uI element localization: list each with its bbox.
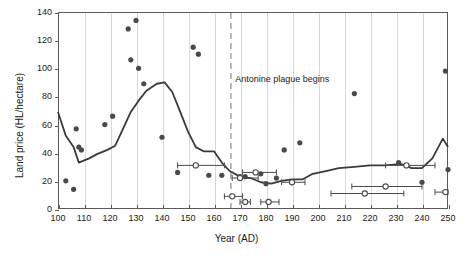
gridline-vertical bbox=[397, 13, 398, 208]
x-axis-tick-label: 200 bbox=[310, 213, 325, 223]
x-axis-tick-label: 130 bbox=[128, 213, 143, 223]
gridline-vertical bbox=[137, 13, 138, 208]
gridline-vertical bbox=[241, 13, 242, 208]
x-axis-tick-label: 180 bbox=[258, 213, 273, 223]
x-axis-tick bbox=[215, 205, 216, 209]
gridline-vertical bbox=[163, 13, 164, 208]
gridline-vertical bbox=[215, 13, 216, 208]
x-axis-tick bbox=[189, 205, 190, 209]
gridline-vertical bbox=[345, 13, 346, 208]
y-axis-tick-label: 0 bbox=[26, 204, 52, 214]
x-axis-tick bbox=[397, 205, 398, 209]
y-axis-tick bbox=[55, 69, 59, 70]
y-axis-tick-label: 120 bbox=[26, 35, 52, 45]
x-axis-tick bbox=[423, 205, 424, 209]
y-axis-tick-label: 100 bbox=[26, 63, 52, 73]
gridline-vertical bbox=[423, 13, 424, 208]
gridline-vertical bbox=[267, 13, 268, 208]
y-axis-tick bbox=[55, 210, 59, 211]
x-axis-tick bbox=[345, 205, 346, 209]
annotation-antonine-plague: Antonine plague begins bbox=[235, 74, 329, 84]
x-axis-tick-label: 230 bbox=[388, 213, 403, 223]
x-axis-tick bbox=[319, 205, 320, 209]
x-axis-title: Year (AD) bbox=[0, 233, 473, 244]
y-axis-tick-label: 40 bbox=[26, 148, 52, 158]
x-axis-tick-label: 150 bbox=[180, 213, 195, 223]
y-axis-tick-label: 140 bbox=[26, 7, 52, 17]
gridline-vertical bbox=[111, 13, 112, 208]
gridline-vertical bbox=[319, 13, 320, 208]
x-axis-tick-label: 220 bbox=[362, 213, 377, 223]
x-axis-tick-label: 140 bbox=[154, 213, 169, 223]
y-axis-tick bbox=[55, 41, 59, 42]
x-axis-tick bbox=[85, 205, 86, 209]
y-axis-tick bbox=[55, 126, 59, 127]
x-axis-tick-label: 210 bbox=[336, 213, 351, 223]
x-axis-tick-label: 240 bbox=[414, 213, 429, 223]
x-axis-tick-label: 250 bbox=[440, 213, 455, 223]
gridline-vertical bbox=[189, 13, 190, 208]
y-axis-tick-label: 80 bbox=[26, 91, 52, 101]
x-axis-tick-label: 160 bbox=[206, 213, 221, 223]
y-axis-tick bbox=[55, 182, 59, 183]
x-axis-tick-label: 190 bbox=[284, 213, 299, 223]
gridline-vertical bbox=[371, 13, 372, 208]
x-axis-tick bbox=[293, 205, 294, 209]
chart-container: Land price (HL/hectare) Year (AD) 100110… bbox=[0, 0, 473, 265]
y-axis-tick bbox=[55, 13, 59, 14]
x-axis-tick bbox=[163, 205, 164, 209]
y-axis-tick bbox=[55, 154, 59, 155]
plot-area bbox=[58, 12, 448, 209]
y-axis-tick bbox=[55, 97, 59, 98]
gridline-vertical bbox=[85, 13, 86, 208]
x-axis-tick bbox=[111, 205, 112, 209]
x-axis-tick bbox=[59, 205, 60, 209]
y-axis-tick-label: 60 bbox=[26, 120, 52, 130]
x-axis-tick bbox=[371, 205, 372, 209]
y-axis-tick-label: 20 bbox=[26, 176, 52, 186]
x-axis-tick-label: 120 bbox=[102, 213, 117, 223]
x-axis-tick bbox=[137, 205, 138, 209]
x-axis-tick bbox=[241, 205, 242, 209]
x-axis-tick-label: 170 bbox=[232, 213, 247, 223]
x-axis-tick-label: 100 bbox=[50, 213, 65, 223]
x-axis-tick bbox=[449, 205, 450, 209]
gridline-vertical bbox=[293, 13, 294, 208]
x-axis-tick bbox=[267, 205, 268, 209]
y-axis-title: Land price (HL/hectare) bbox=[14, 73, 25, 178]
x-axis-tick-label: 110 bbox=[77, 213, 91, 223]
